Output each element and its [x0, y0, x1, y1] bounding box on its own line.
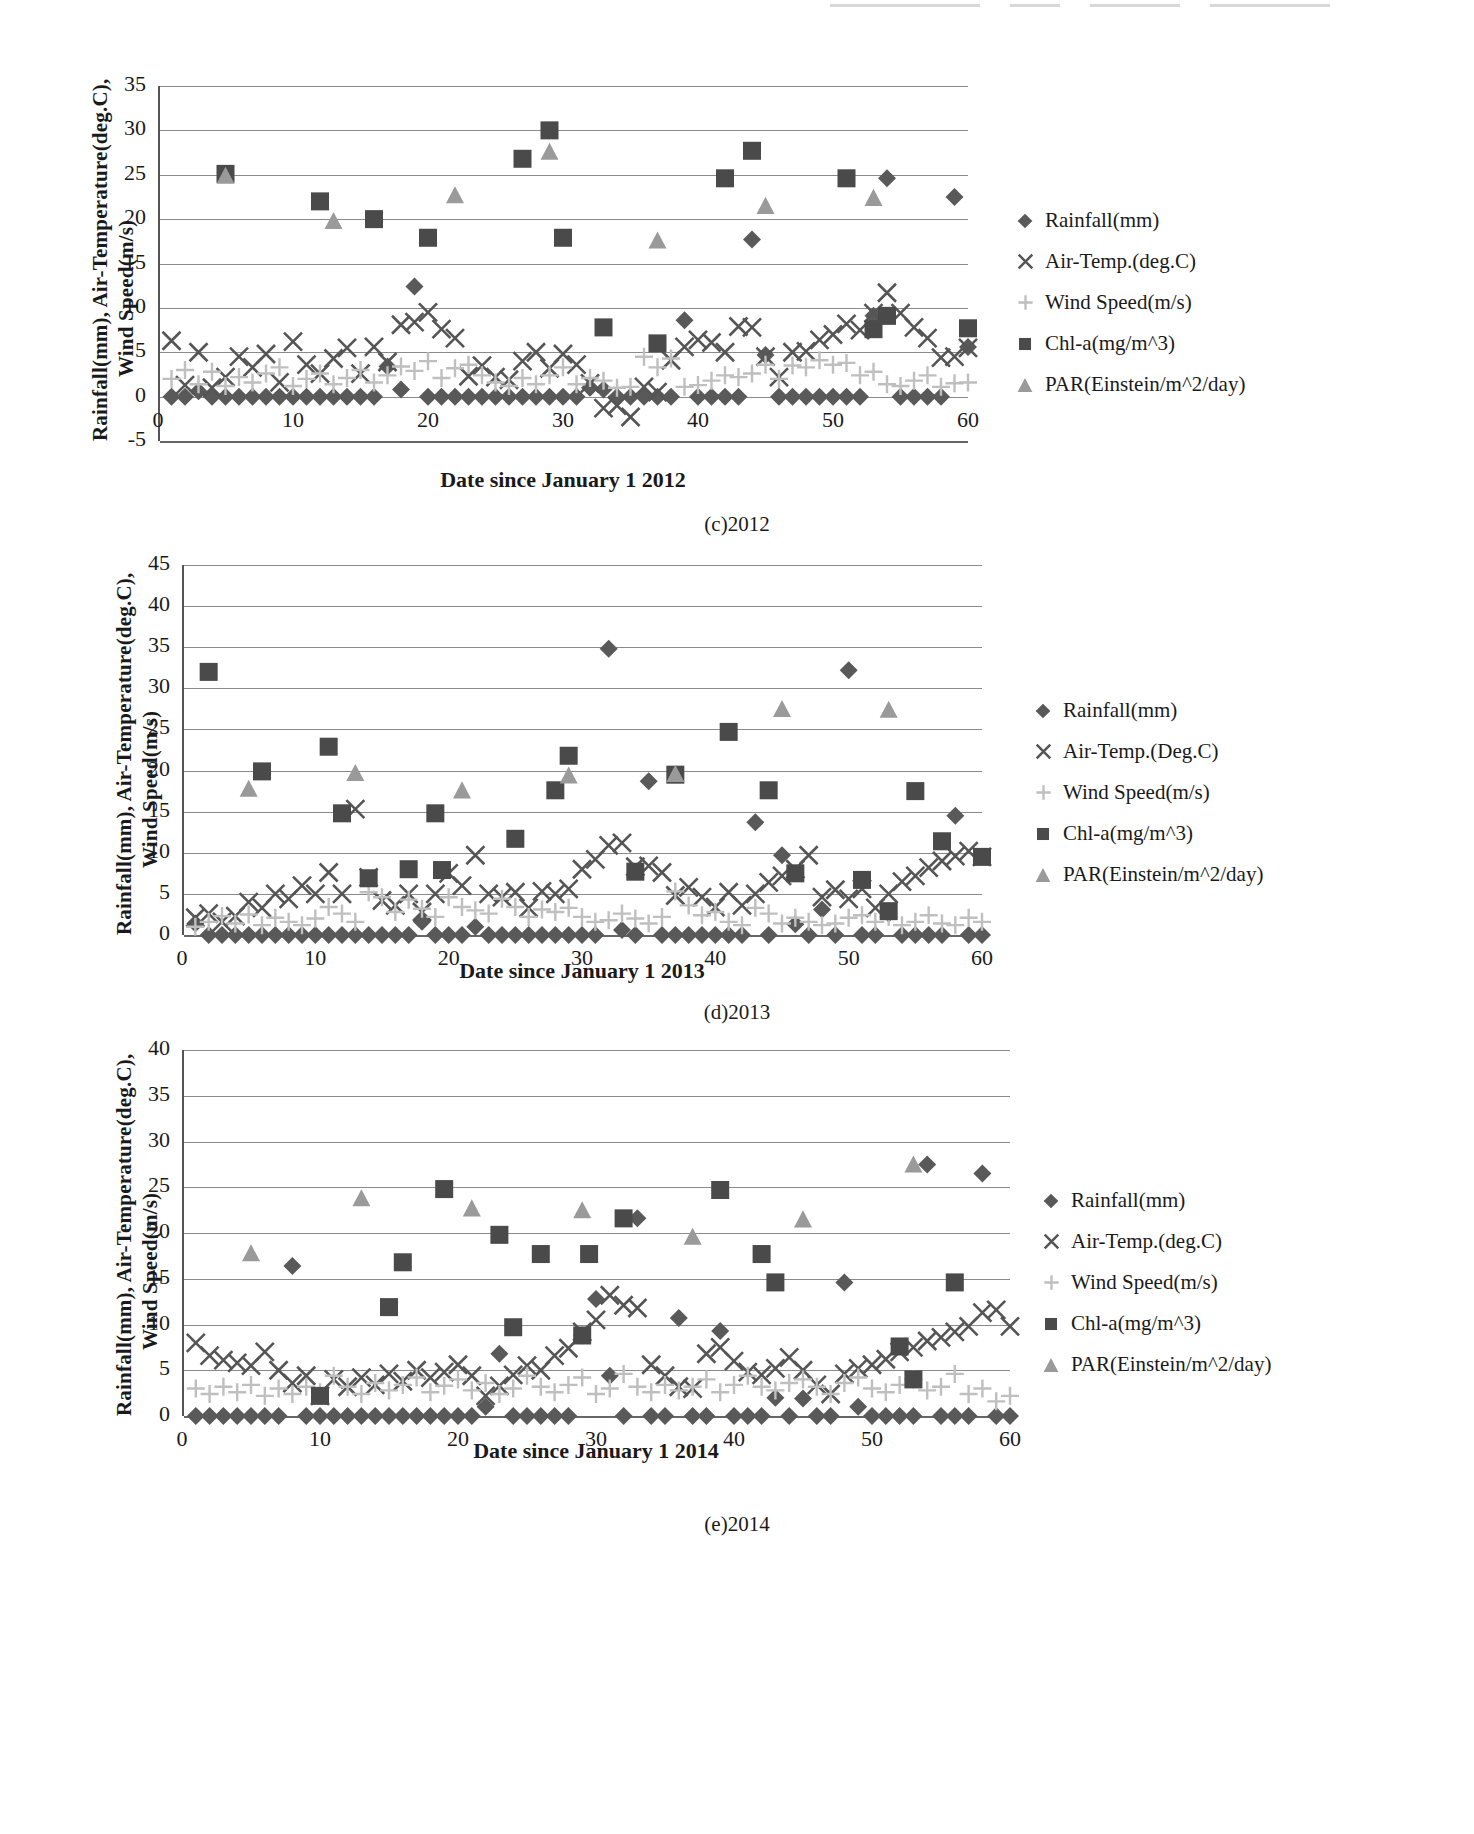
cross-x-marker — [1038, 1233, 1064, 1250]
legend-3: Rainfall(mm) Air-Temp.(deg.C) Wind Speed… — [1038, 1180, 1271, 1385]
legend-item: Wind Speed(m/s) — [1038, 1262, 1271, 1303]
panel-caption: (e)2014 — [0, 1512, 1474, 1537]
legend-label: PAR(Einstein/m^2/day) — [1071, 1352, 1271, 1377]
legend-label: Air-Temp.(deg.C) — [1071, 1229, 1222, 1254]
x-axis-title: Date since January 1 2014 — [182, 1438, 1010, 1464]
triangle-marker — [1038, 1357, 1064, 1373]
plus-marker — [1038, 1274, 1064, 1291]
scatter-points-3 — [0, 0, 1474, 1834]
legend-label: Wind Speed(m/s) — [1071, 1270, 1218, 1295]
square-marker — [1038, 1317, 1064, 1331]
legend-label: Rainfall(mm) — [1071, 1188, 1185, 1213]
legend-item: PAR(Einstein/m^2/day) — [1038, 1344, 1271, 1385]
legend-label: Chl-a(mg/m^3) — [1071, 1311, 1201, 1336]
legend-item: Rainfall(mm) — [1038, 1180, 1271, 1221]
diamond-marker — [1038, 1193, 1064, 1209]
legend-item: Air-Temp.(deg.C) — [1038, 1221, 1271, 1262]
legend-item: Chl-a(mg/m^3) — [1038, 1303, 1271, 1344]
